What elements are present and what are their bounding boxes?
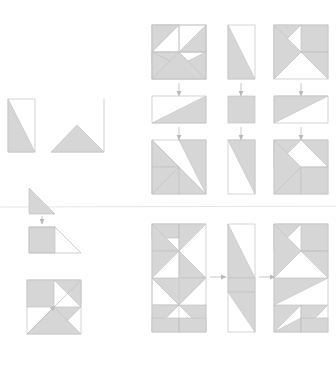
- top-flow-column-1: [152, 25, 206, 194]
- top-flow-column-2: [228, 25, 255, 194]
- legend-pinwheel-block: [27, 280, 81, 334]
- legend-arrow-step-left: [29, 186, 85, 256]
- bottom-flow-column-2: [228, 224, 255, 332]
- bottom-flow-column-1: [152, 224, 206, 332]
- diagram-canvas: Quilt Block Half-Square-Triangle Constru…: [0, 0, 336, 366]
- top-flow-column-3: [274, 25, 328, 194]
- bottom-flow-column-3: [274, 224, 328, 332]
- legend-shapes-top-left: [8, 96, 108, 156]
